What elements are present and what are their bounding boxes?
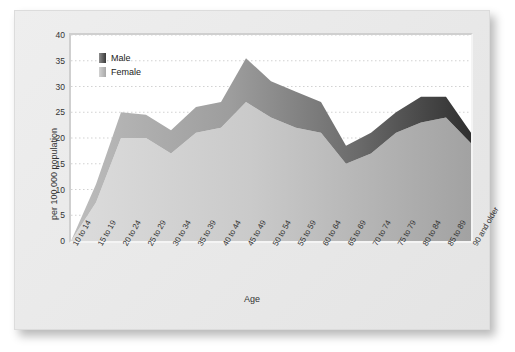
chart-card: per 100 000 population 4035302520151050 (14, 10, 490, 330)
y-axis-tick: 40 (39, 31, 65, 39)
legend-swatch-female (99, 67, 106, 77)
y-axis-tick: 5 (39, 211, 65, 219)
x-axis-title: Age (15, 294, 489, 304)
legend-item-male: Male (99, 53, 141, 63)
x-axis-tick: 90 and older (471, 206, 500, 248)
y-axis-tick: 20 (39, 134, 65, 142)
legend-label-male: Male (111, 53, 131, 63)
y-axis-tick: 0 (39, 237, 65, 245)
y-axis: 4035302520151050 (33, 11, 65, 329)
chart-legend: Male Female (99, 53, 141, 81)
plot-frame: Male Female (69, 33, 473, 243)
y-axis-tick: 25 (39, 108, 65, 116)
legend-swatch-male (99, 53, 106, 63)
y-axis-tick: 15 (39, 160, 65, 168)
y-axis-tick: 10 (39, 186, 65, 194)
y-axis-tick: 30 (39, 83, 65, 91)
legend-label-female: Female (111, 67, 141, 77)
legend-item-female: Female (99, 67, 141, 77)
y-axis-tick: 35 (39, 57, 65, 65)
